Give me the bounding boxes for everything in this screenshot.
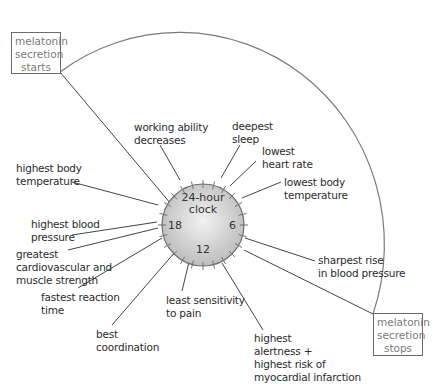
melatonin-start-box: melatonin secretion starts bbox=[11, 32, 61, 74]
label-working-ability: working ability decreases bbox=[134, 121, 208, 147]
label-lowest-body-temp: lowest body temperature bbox=[284, 176, 348, 202]
clock-title: 24-hour clock bbox=[178, 192, 228, 216]
label-highest-blood-pressure: highest blood pressure bbox=[31, 218, 100, 244]
label-highest-alertness: highest alertness + highest risk of myoc… bbox=[254, 332, 361, 384]
clock-hour-18: 18 bbox=[168, 220, 182, 232]
label-greatest-strength: greatest cardiovascular and muscle stren… bbox=[16, 248, 112, 287]
label-sharpest-rise-bp: sharpest rise in blood pressure bbox=[318, 254, 405, 280]
clock-hour-6: 6 bbox=[229, 220, 236, 232]
label-best-coordination: best coordination bbox=[96, 328, 159, 354]
clock-hour-12: 12 bbox=[196, 244, 210, 256]
label-deepest-sleep: deepest sleep bbox=[232, 120, 273, 146]
melatonin-stop-box: melatonin secretion stops bbox=[373, 313, 423, 356]
label-lowest-heart-rate: lowest heart rate bbox=[262, 145, 313, 171]
label-fastest-reaction: fastest reaction time bbox=[41, 291, 120, 317]
label-least-pain: least sensitivity to pain bbox=[166, 294, 245, 320]
label-highest-body-temp: highest body temperature bbox=[16, 162, 82, 188]
